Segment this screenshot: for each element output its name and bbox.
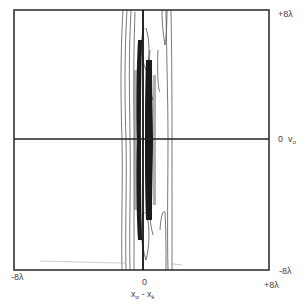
label-right-sub: α	[293, 139, 296, 145]
xlabel-sub2: k	[152, 294, 155, 300]
contour-lines	[40, 10, 182, 270]
label-right-zero: 0	[278, 134, 283, 144]
label-top-right: +8λ	[278, 10, 293, 19]
xlabel-minus: -	[141, 289, 144, 299]
label-right-axis: 0 vα	[278, 135, 296, 145]
label-bottom-right-upper: -8λ	[279, 267, 292, 276]
xlabel-sub1: α	[136, 294, 139, 300]
x-axis-label: xα - xk	[131, 290, 155, 300]
label-bottom-zero: 0	[142, 278, 147, 287]
label-bottom-right-lower: +8λ	[264, 281, 279, 290]
label-bottom-left: -8λ	[11, 273, 24, 282]
contour-plot	[0, 0, 307, 305]
